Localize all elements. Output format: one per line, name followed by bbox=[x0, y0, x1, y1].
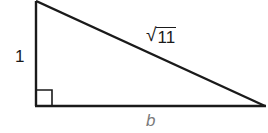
height-label: 1 bbox=[15, 48, 24, 65]
right-angle-marker bbox=[36, 90, 52, 106]
base-label: b bbox=[146, 112, 155, 129]
hypotenuse-label: √ 11 bbox=[146, 26, 176, 46]
hypotenuse bbox=[36, 1, 265, 106]
triangle-figure bbox=[0, 0, 268, 133]
radicand-value: 11 bbox=[156, 27, 176, 46]
square-root-symbol: √ bbox=[146, 25, 156, 44]
